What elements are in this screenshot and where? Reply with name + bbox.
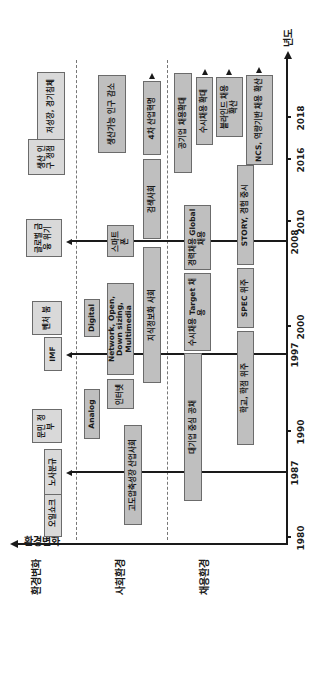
year-1987: 1987 [290, 460, 300, 485]
separator-social-hiring [167, 60, 168, 540]
year-axis [286, 55, 288, 545]
tick-2018 [286, 117, 291, 119]
year-2018: 2018 [296, 105, 306, 130]
left-axis [14, 544, 286, 546]
row-label-env: 환경변화 [28, 559, 43, 595]
hiring-spec: SPEC 위주 [237, 268, 254, 328]
hiring-rolling-arrow-icon [202, 69, 208, 75]
event-imf: IMF [44, 337, 62, 371]
social-4th-industrial-arrow-icon [149, 73, 155, 79]
year-2000: 2000 [296, 314, 306, 339]
social-internet: 인터넷 [107, 379, 134, 409]
year-1990: 1990 [296, 419, 306, 444]
event-oil-shock: 오일쇼크 [44, 489, 62, 537]
hiring-target-recruitment: 수시채용 Target 채용 [184, 273, 211, 351]
row-label-hiring: 채용환경 [196, 559, 211, 595]
year-2010: 2010 [296, 209, 306, 234]
event-civilian-government: 문민 정부 [32, 409, 62, 443]
hiring-school-gpa: 학교, 학점 위주 [237, 331, 254, 445]
event-venture-boom: 벤처 붐 [32, 301, 62, 335]
axis-label-year: 년도 [280, 29, 295, 47]
year-1980: 1980 [296, 525, 306, 550]
hiring-public-enterprise-expansion: 공기업 채용확대 [174, 73, 192, 173]
hiring-blind-recruitment: 블라인드 채용 확산 [216, 77, 243, 137]
tick-2016 [286, 159, 291, 161]
hiring-blind-arrow-icon [226, 69, 232, 75]
hiring-ncs-arrow-icon [256, 67, 262, 73]
tick-1990 [286, 431, 291, 433]
social-network-open: Network, Open, Down sizing, Multimedia [107, 283, 134, 375]
separator-env-social [76, 60, 77, 540]
social-analog: Analog [84, 389, 100, 439]
social-industrial-society: 고도압축성장 산업사회 [124, 425, 142, 525]
hiring-global-recruitment: 경력채용 Global 채용 [184, 205, 211, 270]
connector-1997-arrow-icon [66, 352, 72, 358]
social-digital: Digital [84, 299, 100, 337]
event-labor-dispute: 노사분규 [44, 449, 62, 495]
year-1997: 1997 [290, 342, 300, 367]
event-low-growth-recession: 저성장, 경기침체 [37, 72, 65, 140]
social-4th-industrial-revolution: 4차 산업혁명 [143, 81, 161, 155]
right-arrow-icon [284, 51, 292, 59]
connector-2008-arrow-icon [66, 239, 72, 245]
row-label-social: 사회환경 [112, 559, 127, 595]
event-productive-population-peak: 생산 인구 정점 [28, 139, 65, 175]
social-smartphone: 스마트 폰 [107, 225, 134, 257]
timeline-diagram: 환경변화 환경변화 사회환경 채용환경 년도 1980 1987 1990 19… [0, 0, 322, 675]
up-arrow-icon [10, 540, 18, 548]
hiring-story-experience: STORY, 경험 중시 [237, 165, 254, 265]
tick-2010 [286, 221, 291, 223]
hiring-large-company-recruitment: 대기업 중심 공채 [184, 353, 202, 501]
event-global-financial-crisis: 글로벌 금융 위기 [26, 219, 62, 257]
social-knowledge-information-society: 지식정보화 사회 [143, 247, 161, 383]
hiring-ncs-competency: NCS, 역량기반 채용 확산 [246, 75, 273, 165]
social-search-society: 검색사회 [143, 159, 161, 239]
connector-1987-arrow-icon [66, 470, 72, 476]
social-working-population-decline: 생산가능 인구 감소 [98, 75, 126, 153]
tick-2000 [286, 326, 291, 328]
connector-1987 [70, 472, 286, 474]
tick-1980 [286, 537, 291, 539]
year-2016: 2016 [296, 147, 306, 172]
hiring-rolling-recruitment-expansion: 수시채용 확대 [196, 77, 213, 145]
